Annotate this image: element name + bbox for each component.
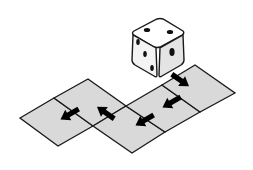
die-path-diagram bbox=[0, 0, 253, 170]
tile-path bbox=[20, 65, 235, 153]
die-pip bbox=[169, 48, 174, 56]
die-pip bbox=[136, 39, 140, 45]
die-icon bbox=[132, 19, 184, 77]
die-pip bbox=[167, 30, 173, 34]
die-pip bbox=[150, 65, 154, 71]
diagram-canvas bbox=[0, 0, 253, 170]
die-pip bbox=[143, 51, 147, 57]
die-pip bbox=[144, 28, 150, 32]
